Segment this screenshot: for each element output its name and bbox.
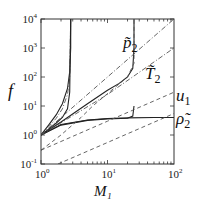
plot-frame [41,19,174,164]
y-tick-label: 103 [23,41,38,54]
axis-ticks [41,19,174,164]
series-label: T̃2 [145,64,160,86]
series-line-8 [41,19,134,150]
x-tick-label: 100 [35,167,50,180]
series-line-0 [41,19,71,135]
series-line-2 [41,19,71,135]
x-tick-label: 102 [168,167,183,180]
y-axis-label: f [8,81,16,101]
x-tick-label: 101 [102,167,117,180]
series-line-9 [41,92,174,150]
series-label: ρ̃2 [175,109,191,131]
y-tick-label: 100 [23,128,38,141]
series-label: p̃2 [122,33,138,55]
series-line-1 [41,19,71,135]
plot-lines [41,19,174,164]
series-line-10 [58,114,174,165]
chart: 10-1100101102103104100101102 f M₁ p̃2T̃2… [0,0,202,206]
y-tick-label: 102 [23,70,38,83]
x-axis-label: M₁ [93,183,112,199]
series-line-5 [41,118,174,136]
series-label: u1 [176,86,191,108]
tick-labels: 10-1100101102103104100101102 [20,12,183,180]
y-tick-label: 104 [23,12,38,25]
y-tick-label: 101 [23,99,38,112]
